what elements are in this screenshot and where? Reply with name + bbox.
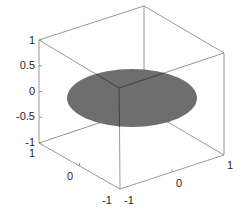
front-vertical-edge-overlay — [119, 88, 120, 127]
disk-surface — [67, 69, 197, 127]
z-tick-0.5: 0.5 — [20, 59, 35, 71]
top-back-left-edge — [39, 6, 144, 40]
x-tick-1: 1 — [227, 159, 233, 171]
y-tick-0: 0 — [67, 170, 73, 182]
top-back-right-edge — [144, 6, 224, 53]
y-tick-minus-1: -1 — [102, 194, 112, 206]
y-axis-labels: 1 0 -1 — [29, 147, 112, 206]
y-tick-1: 1 — [29, 147, 35, 159]
z-tick-minus-0.5: -0.5 — [16, 110, 35, 122]
3d-plot: 1 0.5 0 -0.5 -1 1 0 -1 -1 0 1 — [0, 0, 245, 213]
x-tick-0: 0 — [176, 177, 182, 189]
z-tick-1: 1 — [29, 34, 35, 46]
z-tick-0: 0 — [29, 85, 35, 97]
x-tick-minus-1: -1 — [124, 194, 134, 206]
front-vertical-edge — [120, 127, 121, 189]
z-axis-labels: 1 0.5 0 -0.5 -1 — [16, 34, 35, 148]
